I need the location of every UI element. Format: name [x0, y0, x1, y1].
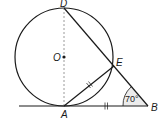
- label-a: A: [60, 109, 68, 119]
- label-b: B: [151, 102, 158, 113]
- label-o: O: [53, 52, 61, 63]
- label-d: D: [60, 0, 67, 9]
- segment-db: [64, 8, 148, 106]
- label-e: E: [116, 57, 123, 68]
- angle-label: 70°: [125, 94, 139, 104]
- geometry-diagram: D O E A B 70°: [0, 0, 165, 119]
- center-point-o: [62, 55, 65, 58]
